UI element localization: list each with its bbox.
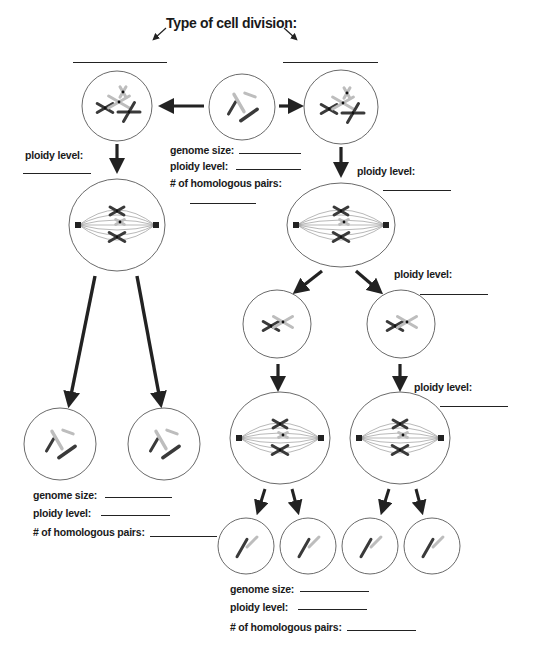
gamete-3	[342, 518, 398, 574]
diagram-canvas	[0, 0, 536, 647]
mitosis-ploidy-result-label: ploidy level:	[33, 507, 91, 519]
meiosis2-metaphase-right	[350, 392, 450, 484]
meiosis2-metaphase-ploidy-label: ploidy level:	[414, 381, 472, 393]
mitosis-ploidy-label: ploidy level:	[25, 149, 83, 161]
gamete-2	[280, 518, 336, 574]
meiosis1-metaphase-cell	[287, 183, 395, 267]
arrow-gamete-3	[383, 489, 389, 508]
parent-cell	[209, 74, 275, 140]
parent-homologous-pairs-blank[interactable]	[190, 203, 256, 204]
worksheet-title: Type of cell division:	[166, 15, 297, 31]
mitosis-homologous-pairs-label: # of homologous pairs:	[33, 526, 145, 538]
meiosis-ploidy-result-blank[interactable]	[298, 609, 367, 610]
arrow-gamete-2	[292, 489, 297, 508]
meiosis2-metaphase-ploidy-blank[interactable]	[440, 406, 508, 407]
parent-ploidy-blank[interactable]	[236, 169, 301, 170]
meiosis-genome-size-blank[interactable]	[300, 591, 369, 592]
arrow-meiosis1-right	[356, 271, 377, 289]
mitosis-daughter-left	[24, 408, 96, 480]
arrow-meiosis1-left	[299, 271, 322, 289]
meiosis1-ploidy-blank[interactable]	[383, 190, 451, 191]
meiosis-prophase-cell	[304, 70, 378, 144]
mitosis-prophase-cell	[82, 71, 152, 141]
meiosis-ploidy-result-label: ploidy level:	[230, 601, 288, 613]
meiosis2-metaphase-left	[230, 392, 330, 484]
mitosis-homologous-pairs-blank[interactable]	[150, 536, 217, 537]
mitosis-metaphase-cell	[69, 179, 165, 271]
parent-homologous-pairs-label: # of homologous pairs:	[170, 177, 282, 189]
arrow-gamete-4	[416, 489, 421, 508]
right-division-type-blank[interactable]	[283, 62, 378, 63]
parent-genome-size-label: genome size:	[170, 144, 234, 156]
arrow-gamete-1	[259, 489, 265, 508]
meiosis-genome-size-label: genome size:	[230, 583, 294, 595]
mitosis-ploidy-result-blank[interactable]	[101, 515, 170, 516]
gamete-4	[404, 518, 460, 574]
mitosis-daughter-right	[128, 408, 200, 480]
arrow-mitosis-left	[70, 276, 95, 400]
meiosis1-daughter-left	[243, 290, 311, 358]
meiosis-homologous-pairs-label: # of homologous pairs:	[230, 621, 342, 633]
gamete-1	[218, 518, 274, 574]
mitosis-ploidy-blank[interactable]	[23, 173, 91, 174]
arrow-mitosis-right	[137, 276, 160, 400]
left-division-type-blank[interactable]	[73, 62, 167, 63]
meiosis-homologous-pairs-blank[interactable]	[347, 630, 416, 631]
parent-genome-size-blank[interactable]	[239, 153, 301, 154]
mitosis-genome-size-blank[interactable]	[105, 497, 172, 498]
parent-ploidy-label: ploidy level:	[170, 160, 228, 172]
mitosis-genome-size-label: genome size:	[33, 489, 97, 501]
meiosis2-ploidy-label: ploidy level:	[394, 268, 452, 280]
meiosis1-daughter-right	[367, 290, 435, 358]
cell-division-worksheet: Type of cell division: genome size:ploid…	[0, 0, 536, 647]
meiosis2-ploidy-blank[interactable]	[420, 294, 488, 295]
meiosis1-ploidy-label: ploidy level:	[357, 165, 415, 177]
